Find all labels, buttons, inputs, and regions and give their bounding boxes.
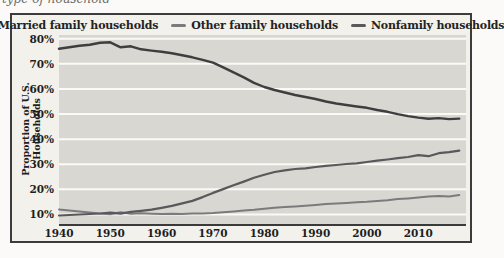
y-tick-label: 10% (29, 208, 54, 220)
legend-label: Nonfamily households (371, 19, 504, 32)
x-tick-label: 1940 (44, 227, 73, 239)
y-tick-label: 40% (29, 133, 54, 145)
y-tick-label: 70% (29, 58, 54, 70)
x-tick-label: 1970 (198, 227, 227, 239)
line-swatch-icon (171, 24, 186, 27)
chart-legend: Married family households Other family h… (12, 17, 470, 33)
x-tick-label: 1950 (96, 227, 125, 239)
x-tick-label: 2010 (404, 227, 433, 239)
x-tick-label: 2000 (352, 227, 381, 239)
y-tick-label: 50% (29, 108, 54, 120)
legend-item-married: Married family households (0, 19, 158, 32)
x-tick-label: 1960 (147, 227, 176, 239)
x-tick-label: 1990 (301, 227, 330, 239)
line-chart: 80%70%60%50%40%30%20%10%1940195019601970… (12, 33, 474, 245)
legend-label: Married family households (0, 19, 158, 32)
clipped-caption: type of household (2, 0, 202, 7)
y-tick-label: 30% (29, 158, 54, 170)
y-tick-label: 60% (29, 83, 54, 95)
legend-label: Other family households (191, 19, 338, 32)
x-tick-label: 1980 (250, 227, 279, 239)
chart-figure: Married family households Other family h… (10, 13, 472, 243)
clipped-caption-text: type of household (2, 0, 202, 6)
line-swatch-icon (351, 24, 366, 27)
legend-item-other: Other family households (171, 19, 338, 32)
y-tick-label: 80% (29, 33, 54, 45)
y-tick-label: 20% (29, 183, 54, 195)
legend-item-nonfamily: Nonfamily households (351, 19, 504, 32)
